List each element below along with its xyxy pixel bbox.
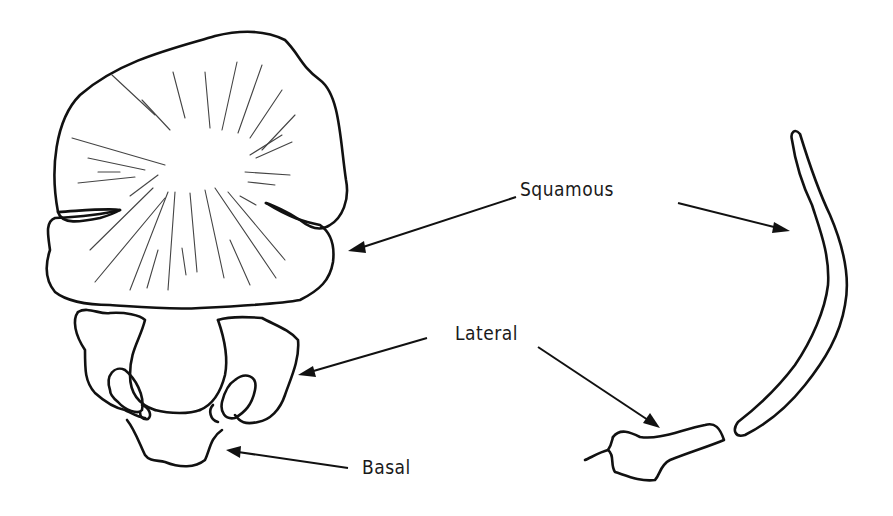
squamous-part-posterior [47,32,347,309]
occipital-lateral-section [585,131,847,480]
label-squamous: Squamous [520,178,614,200]
arrow-basal [226,446,348,468]
lateral-and-basal-parts-posterior [75,310,298,466]
label-basal: Basal [362,456,411,478]
radial-striations [72,62,295,290]
arrow-lateral-to-posterior [298,338,427,377]
arrow-lateral-to-section [538,347,660,428]
label-lateral: Lateral [455,322,518,344]
occipital-bone-diagram [0,0,893,516]
arrow-squamous-to-section [678,203,790,233]
arrow-squamous-to-posterior [348,197,516,253]
